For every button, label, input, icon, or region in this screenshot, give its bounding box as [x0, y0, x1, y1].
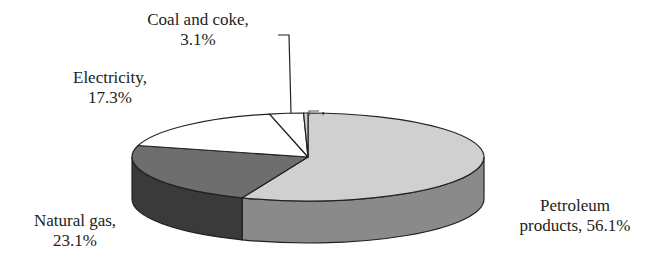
leader-lines — [278, 35, 319, 116]
label-natural-gas: Natural gas, 23.1% — [10, 211, 140, 251]
label-petroleum-value: products, 56.1% — [500, 216, 650, 236]
label-petroleum-products: Petroleum — [500, 196, 650, 216]
label-electricity: Electricity, 17.3% — [40, 68, 180, 108]
pie-top-faces — [132, 113, 484, 201]
petroleum-value-text: products, 56.1% — [500, 216, 650, 236]
label-coal-and-coke: Coal and coke, 3.1% — [118, 10, 278, 50]
label-other: , — [318, 99, 328, 119]
